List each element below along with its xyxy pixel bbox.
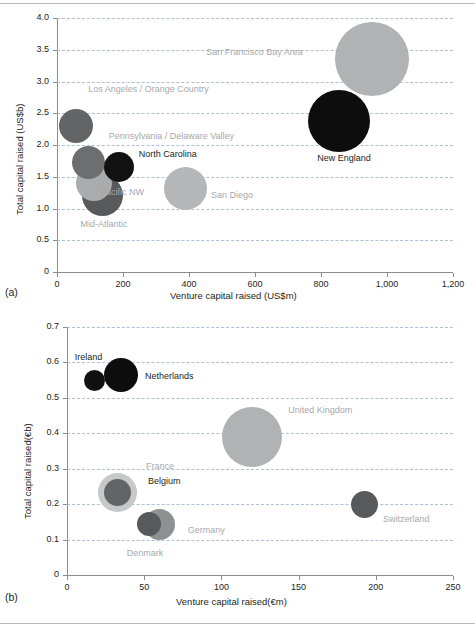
bubble-label-switzerland: Switzerland xyxy=(383,514,430,524)
chart-panel-b: 00.10.20.30.40.50.60.7050100150200250Ire… xyxy=(0,313,475,627)
x-axis-tick xyxy=(57,273,58,277)
y-gridline xyxy=(67,327,453,328)
bubble-netherlands[interactable] xyxy=(104,358,138,392)
bubble-denmark[interactable] xyxy=(137,512,161,536)
x-axis-tick xyxy=(299,576,300,580)
y-gridline xyxy=(67,398,453,399)
x-axis-tick xyxy=(453,273,454,277)
x-axis-tick xyxy=(255,273,256,277)
x-axis-tick xyxy=(189,273,190,277)
y-axis-tick xyxy=(63,504,67,505)
y-gridline xyxy=(57,145,453,146)
x-axis-tick xyxy=(321,273,322,277)
y-axis-tick xyxy=(63,540,67,541)
bubble-los-angeles-orange-country[interactable] xyxy=(59,109,93,143)
x-axis-tick-label: 200 xyxy=(354,582,398,592)
chart-panel-a: 00.51.01.52.02.53.03.54.002004006008001,… xyxy=(0,0,475,313)
y-axis-tick xyxy=(53,209,57,210)
bubble-switzerland[interactable] xyxy=(351,491,378,518)
bubble-label-united-kingdom: United Kingdom xyxy=(288,405,352,415)
y-axis-tick-label: 0.6 xyxy=(23,356,59,366)
bubble-label-germany: Germany xyxy=(188,525,225,535)
y-axis-title-b: Total capital raised(€b) xyxy=(22,423,33,519)
y-axis-spine xyxy=(67,327,68,575)
y-axis-tick xyxy=(53,145,57,146)
x-axis-spine xyxy=(67,575,453,576)
x-axis-title-b: Venture capital raised(€m) xyxy=(176,596,287,607)
x-axis-tick-label: 600 xyxy=(233,279,277,289)
x-axis-tick-label: 0 xyxy=(35,279,79,289)
x-axis-tick xyxy=(453,576,454,580)
y-axis-tick xyxy=(53,50,57,51)
y-axis-tick-label: 0.5 xyxy=(23,392,59,402)
y-axis-tick xyxy=(53,113,57,114)
y-axis-tick xyxy=(63,362,67,363)
x-axis-tick xyxy=(221,576,222,580)
y-axis-tick-label: 4.0 xyxy=(13,12,49,22)
y-axis-tick xyxy=(53,82,57,83)
bubble-ireland[interactable] xyxy=(84,370,105,391)
y-axis-tick-label: 0.1 xyxy=(23,534,59,544)
bubble-label-denmark: Denmark xyxy=(127,548,164,558)
bubble-san-diego[interactable] xyxy=(164,167,207,210)
panel-tag-b: (b) xyxy=(5,591,18,603)
bubble-label-france: France xyxy=(146,461,174,471)
plot-area-b: 00.10.20.30.40.50.60.7050100150200250Ire… xyxy=(67,327,453,575)
bubble-label-ireland: Ireland xyxy=(75,352,103,362)
bubble-label-new-england: New England xyxy=(317,153,371,163)
y-axis-tick-label: 3.0 xyxy=(13,76,49,86)
y-axis-title-a: Total capital raised (US$b) xyxy=(14,104,25,215)
x-axis-tick-label: 200 xyxy=(101,279,145,289)
y-axis-tick xyxy=(63,433,67,434)
x-axis-tick-label: 250 xyxy=(431,582,475,592)
bubble-united-kingdom[interactable] xyxy=(222,407,282,467)
y-axis-tick-label: 0.7 xyxy=(23,321,59,331)
y-gridline xyxy=(57,240,453,241)
x-axis-tick-label: 50 xyxy=(122,582,166,592)
bubble-north-carolina[interactable] xyxy=(104,152,134,182)
plot-area-a: 00.51.01.52.02.53.03.54.002004006008001,… xyxy=(57,18,453,272)
x-axis-tick-label: 150 xyxy=(277,582,321,592)
x-axis-tick xyxy=(376,576,377,580)
y-axis-tick xyxy=(63,469,67,470)
bubble-label-los-angeles-orange-country: Los Angeles / Orange Country xyxy=(88,84,209,94)
bubble-san-francisco-bay-area[interactable] xyxy=(335,22,409,96)
x-axis-tick xyxy=(123,273,124,277)
x-axis-tick-label: 100 xyxy=(199,582,243,592)
x-axis-tick-label: 1,200 xyxy=(431,279,475,289)
bubble-label-netherlands: Netherlands xyxy=(145,371,194,381)
y-gridline xyxy=(67,469,453,470)
y-axis-tick xyxy=(53,240,57,241)
x-axis-tick-label: 0 xyxy=(45,582,89,592)
y-gridline xyxy=(67,540,453,541)
y-axis-tick-label: 0.5 xyxy=(13,234,49,244)
y-axis-tick xyxy=(63,398,67,399)
y-axis-tick-label: 3.5 xyxy=(13,44,49,54)
bubble-label-belgium: Belgium xyxy=(148,476,181,486)
panel-tag-a: (a) xyxy=(5,286,18,298)
y-axis-tick-label: 0 xyxy=(13,266,49,276)
y-gridline xyxy=(57,18,453,19)
x-axis-tick xyxy=(67,576,68,580)
bubble-label-pacific-nw: Pacific NW xyxy=(100,187,144,197)
x-axis-tick xyxy=(144,576,145,580)
bubble-label-san-diego: San Diego xyxy=(211,190,253,200)
bubble-label-mid-atlantic: Mid-Atlantic xyxy=(81,219,128,229)
x-axis-tick-label: 800 xyxy=(299,279,343,289)
x-axis-title-a: Venture capital raised (US$m) xyxy=(170,290,297,301)
bubble-new-england[interactable] xyxy=(308,90,370,152)
y-axis-tick xyxy=(63,327,67,328)
x-axis-tick xyxy=(387,273,388,277)
bubble-label-san-francisco-bay-area: San Francisco Bay Area xyxy=(206,47,303,57)
bubble-label-pennsylvania-delaware-valley: Pennsylvania / Delaware Valley xyxy=(109,131,234,141)
bubble-label-north-carolina: North Carolina xyxy=(139,149,197,159)
y-axis-tick xyxy=(53,18,57,19)
y-axis-tick xyxy=(53,177,57,178)
y-axis-tick-label: 0 xyxy=(23,569,59,579)
x-axis-tick-label: 400 xyxy=(167,279,211,289)
x-axis-tick-label: 1,000 xyxy=(365,279,409,289)
y-gridline xyxy=(57,113,453,114)
